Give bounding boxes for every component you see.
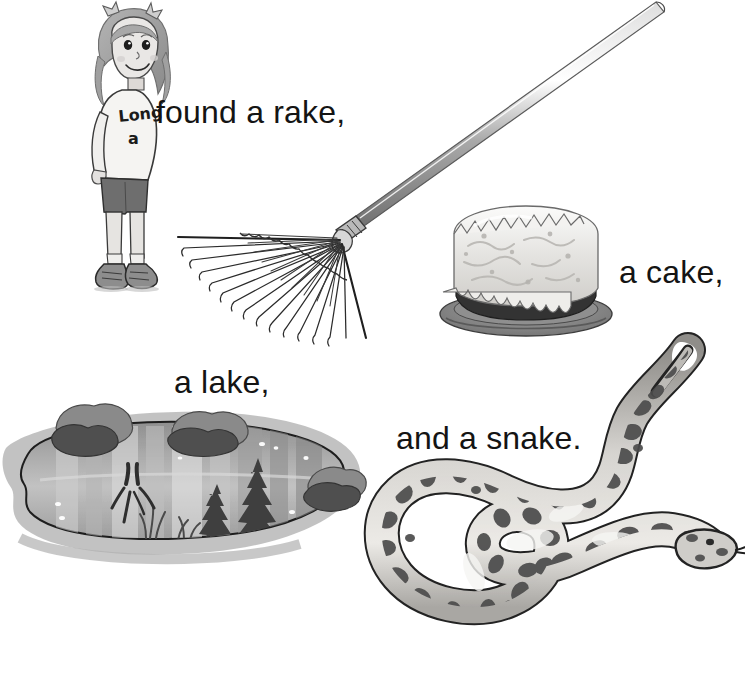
lake-illustration	[0, 388, 370, 618]
shoe-left	[96, 264, 129, 289]
cheek-right	[150, 55, 158, 61]
eye-left-highlight	[128, 42, 131, 45]
snake-head	[676, 530, 737, 569]
shirt-text-a: a	[128, 129, 139, 148]
eye-right	[142, 40, 150, 50]
shoe-right	[125, 264, 157, 289]
lake-svg	[0, 388, 370, 618]
eye-left	[124, 40, 132, 50]
shoe-right-shadow	[125, 286, 159, 292]
leg-right	[130, 212, 144, 258]
cheek-left	[117, 56, 125, 62]
shorts	[101, 178, 148, 214]
snake-svg	[370, 340, 745, 683]
shoe-left-shadow	[94, 286, 128, 292]
snake-illustration	[370, 340, 745, 683]
caption-cake: a cake,	[619, 254, 724, 291]
leg-left	[106, 212, 122, 258]
sock-left	[107, 254, 122, 264]
eye-right-highlight	[146, 42, 149, 45]
cake-illustration	[428, 196, 624, 342]
cake-svg	[428, 196, 624, 342]
sock-right	[130, 254, 144, 264]
snake-eye	[706, 539, 714, 545]
rake-tines	[182, 241, 346, 346]
illustration-page: Long a found a rake,	[0, 0, 745, 683]
hair-left-strand	[95, 56, 105, 106]
rake-handle	[356, 2, 665, 226]
snake-tongue-lower	[736, 552, 745, 554]
neck	[128, 78, 144, 90]
